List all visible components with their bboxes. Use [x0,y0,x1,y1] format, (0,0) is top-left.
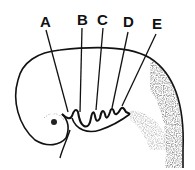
label-d: D [123,14,134,29]
leader-line-c [96,28,103,110]
leader-line-d [112,32,128,108]
eye-spot [51,119,57,125]
leader-line-a [46,30,68,112]
neck-line [60,130,70,158]
pharyngeal-arches [62,108,130,127]
label-c: C [97,12,108,27]
label-a: A [40,14,51,29]
leader-line-b [80,28,82,112]
embryo-diagram: A B C D E [0,0,195,170]
label-b: B [77,12,88,27]
head-outline [16,80,68,145]
label-e: E [152,16,162,31]
